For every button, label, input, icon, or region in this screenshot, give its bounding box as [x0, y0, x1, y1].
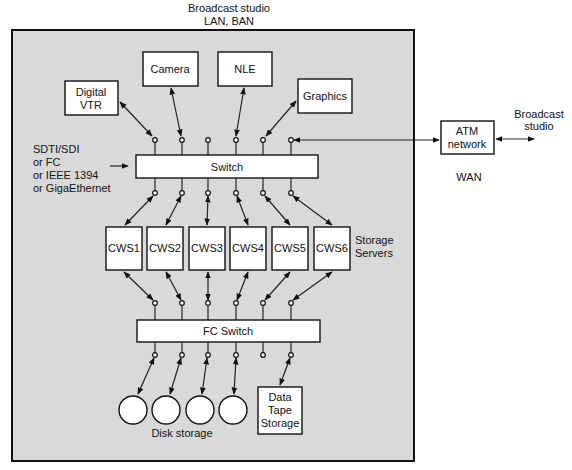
remote-studio-label-1: Broadcast — [514, 108, 564, 120]
svg-text:Storage: Storage — [261, 417, 300, 429]
svg-text:CWS4: CWS4 — [232, 242, 264, 254]
cws5-node: CWS5 — [272, 227, 308, 270]
graphics-node: Graphics — [298, 79, 352, 113]
svg-text:SDTI/SDI: SDTI/SDI — [33, 143, 79, 155]
svg-text:Graphics: Graphics — [303, 90, 348, 102]
svg-text:CWS2: CWS2 — [149, 242, 181, 254]
disk-1 — [119, 396, 147, 424]
remote-studio-label-2: studio — [524, 120, 553, 132]
svg-text:Switch: Switch — [211, 161, 243, 173]
data-tape-storage-node: Data Tape Storage — [258, 387, 302, 434]
top-label-line1: Broadcast studio — [188, 2, 270, 14]
svg-text:or GigaEthernet: or GigaEthernet — [33, 182, 111, 194]
wan-label: WAN — [456, 171, 481, 183]
svg-text:VTR: VTR — [80, 99, 102, 111]
disk-3 — [186, 396, 214, 424]
top-label-line2: LAN, BAN — [204, 15, 254, 27]
atm-network-node: ATM network — [441, 121, 494, 154]
svg-text:Tape: Tape — [268, 404, 292, 416]
nle-node: NLE — [218, 52, 272, 86]
cws4-node: CWS4 — [230, 227, 266, 270]
svg-text:NLE: NLE — [234, 63, 255, 75]
svg-text:Data: Data — [268, 391, 292, 403]
cws2-node: CWS2 — [147, 227, 183, 270]
svg-text:Digital: Digital — [76, 86, 107, 98]
storage-servers-label-2: Servers — [355, 247, 393, 259]
disk-2 — [152, 396, 180, 424]
svg-text:ATM: ATM — [456, 125, 478, 137]
svg-text:or IEEE 1394: or IEEE 1394 — [33, 169, 98, 181]
cws6-node: CWS6 — [314, 227, 350, 270]
switch-node: Switch — [136, 155, 318, 178]
disk-storage-label: Disk storage — [151, 427, 212, 439]
cws3-node: CWS3 — [189, 227, 225, 270]
storage-servers-label-1: Storage — [355, 234, 394, 246]
svg-text:FC Switch: FC Switch — [203, 325, 253, 337]
cws1-node: CWS1 — [106, 227, 142, 270]
svg-text:CWS5: CWS5 — [274, 242, 306, 254]
svg-text:Camera: Camera — [150, 63, 190, 75]
svg-text:CWS1: CWS1 — [108, 242, 140, 254]
svg-text:or FC: or FC — [33, 156, 61, 168]
svg-text:CWS3: CWS3 — [191, 242, 223, 254]
studio-network-diagram: Broadcast studio LAN, BAN Digital VTR Ca… — [0, 0, 572, 470]
camera-node: Camera — [143, 52, 198, 86]
svg-text:CWS6: CWS6 — [316, 242, 348, 254]
digital-vtr-node: Digital VTR — [65, 81, 118, 115]
disk-4 — [219, 396, 247, 424]
svg-text:network: network — [448, 138, 487, 150]
fc-switch-node: FC Switch — [137, 320, 320, 342]
